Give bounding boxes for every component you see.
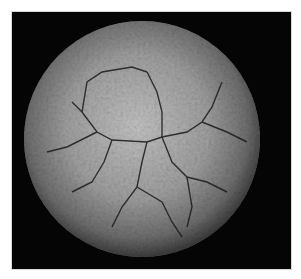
image-frame: Virus capsid surface rendering [12,12,291,269]
virus-capsid-image [12,12,291,269]
